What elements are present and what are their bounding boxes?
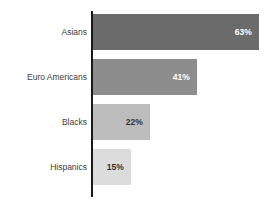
bar-blacks[interactable]: 22%: [93, 104, 150, 140]
category-label-blacks: Blacks: [0, 118, 87, 127]
bar-euro-americans[interactable]: 41%: [93, 59, 197, 95]
bar-value-asians: 63%: [235, 28, 252, 37]
bar-chart: Asians 63% Euro Americans 41% Blacks 22%…: [0, 0, 267, 207]
category-label-euro-americans: Euro Americans: [0, 73, 87, 82]
bar-asians[interactable]: 63%: [93, 14, 259, 50]
category-label-hispanics: Hispanics: [0, 163, 87, 172]
bar-value-euro-americans: 41%: [173, 73, 190, 82]
bar-hispanics[interactable]: 15%: [93, 149, 131, 185]
plot-area: Asians 63% Euro Americans 41% Blacks 22%…: [0, 0, 267, 207]
bar-value-blacks: 22%: [126, 118, 143, 127]
bar-value-hispanics: 15%: [107, 163, 124, 172]
category-label-asians: Asians: [0, 28, 87, 37]
